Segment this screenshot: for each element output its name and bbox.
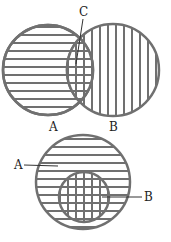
top-label-c: C [79, 5, 88, 19]
bottom-set-b-circle [59, 172, 109, 222]
bottom-label-b: B [144, 190, 153, 204]
bottom-venn: A B [13, 135, 153, 229]
top-label-b: B [109, 120, 118, 134]
top-venn: C A B [3, 5, 159, 134]
top-label-a: A [48, 120, 58, 134]
venn-diagrams: C A B A B [0, 0, 171, 242]
bottom-label-a: A [13, 158, 23, 172]
